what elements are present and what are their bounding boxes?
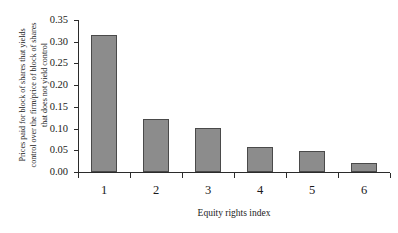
y-axis-tick-label: 0.35 — [50, 13, 68, 26]
y-axis-tick: 0.20 — [74, 85, 79, 86]
y-axis-tick: 0.30 — [74, 42, 79, 43]
x-axis-tick — [338, 173, 339, 178]
y-axis-tick-label: 0.00 — [50, 165, 68, 178]
x-axis-tick — [130, 173, 131, 178]
x-axis-tick — [234, 173, 235, 178]
y-axis-tick: 0.15 — [74, 107, 79, 108]
y-axis-tick: 0.10 — [74, 129, 79, 130]
y-axis-tick-label: 0.25 — [50, 56, 68, 69]
x-axis-tick — [390, 173, 391, 178]
y-axis-tick: 0.05 — [74, 150, 79, 151]
x-axis-tick-label: 2 — [153, 183, 159, 198]
bar — [91, 35, 117, 172]
plot-area: 0.000.050.100.150.200.250.300.35 123456 — [78, 20, 390, 172]
y-axis-tick-label: 0.30 — [50, 35, 68, 48]
x-axis-tick-label: 5 — [309, 183, 315, 198]
x-axis-tick-label: 6 — [361, 183, 367, 198]
bar — [143, 119, 169, 172]
bar — [299, 151, 325, 172]
y-axis-tick-label: 0.05 — [50, 143, 68, 156]
y-axis-tick: 0.35 — [74, 20, 79, 21]
x-axis-tick-label: 1 — [101, 183, 107, 198]
x-axis-tick-label: 4 — [257, 183, 263, 198]
bar — [247, 147, 273, 172]
x-axis-title: Equity rights index — [78, 207, 390, 220]
x-axis-tick — [78, 173, 79, 178]
bar-chart-figure: Prices paid for block of shares that yie… — [0, 0, 398, 233]
y-axis-tick: 0.25 — [74, 63, 79, 64]
bar — [351, 163, 377, 172]
bar — [195, 128, 221, 172]
y-axis-tick-label: 0.20 — [50, 78, 68, 91]
y-axis-tick-label: 0.10 — [50, 122, 68, 135]
x-axis-tick — [182, 173, 183, 178]
y-axis-tick-label: 0.15 — [50, 100, 68, 113]
x-axis-tick — [286, 173, 287, 178]
y-axis-title: Prices paid for block of shares that yie… — [6, 0, 46, 190]
x-axis-tick-label: 3 — [205, 183, 211, 198]
